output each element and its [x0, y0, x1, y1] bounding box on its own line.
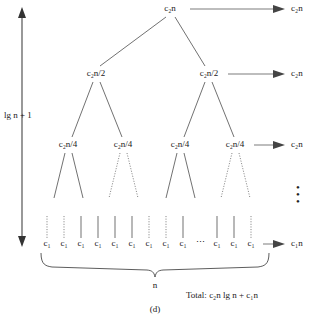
tree-leaf-2: c₁: [77, 239, 84, 248]
tree-leaf-4: c₁: [111, 239, 118, 248]
tree-height-text: lg n + 1: [4, 110, 32, 120]
tree-leaf-5: c₁: [128, 239, 135, 248]
tree-leaf-3: c₁: [94, 239, 101, 248]
edges-level-2-leaves: [54, 153, 250, 198]
leaf-stubs: [47, 216, 251, 238]
level-cost-2: c₂n: [291, 140, 303, 149]
height-axis: [18, 7, 26, 247]
tree-node-l2-3: c₂n/4: [226, 140, 245, 149]
figure-caption: (d): [150, 305, 161, 314]
tree-node-l2-0: c₂n/4: [59, 140, 78, 149]
vertical-ellipsis: •••: [296, 184, 300, 205]
tree-leaf-8: c₁: [179, 239, 186, 248]
tree-node-l2-2: c₂n/4: [171, 140, 190, 149]
recursion-tree-figure: lg n + 1 c₂n c₂n c₂n/2 c₂n/2 c₂n c₂n/4 c…: [0, 0, 317, 318]
level-cost-3: c₁n: [291, 239, 303, 248]
tree-leaf-6: c₁: [145, 239, 152, 248]
leaf-count-label: n: [153, 281, 158, 290]
leaf-row-ellipsis: ⋯: [196, 238, 205, 247]
edges-level-0-1: [100, 17, 205, 66]
tree-leaf-10: c₁: [230, 239, 237, 248]
tree-leaf-11: c₁: [247, 239, 254, 248]
leaf-count-brace: [41, 253, 269, 277]
level-cost-1: c₂n: [291, 69, 303, 78]
level-cost-arrows: [190, 5, 285, 248]
tree-node-l1-1: c₂n/2: [200, 69, 219, 78]
tree-leaf-0: c₁: [43, 239, 50, 248]
total-cost-label: Total: c₂n lg n + c₁n: [186, 291, 258, 300]
total-prefix: Total:: [186, 290, 207, 300]
total-expression: c₂n lg n + c₁n: [209, 290, 258, 300]
edges-level-1-2: [72, 82, 234, 137]
tree-leaf-9: c₁: [213, 239, 220, 248]
tree-leaf-7: c₁: [162, 239, 169, 248]
tree-lines-svg: [0, 0, 317, 318]
tree-node-root: c₂n: [164, 4, 176, 13]
tree-node-l2-1: c₂n/4: [114, 140, 133, 149]
tree-leaf-1: c₁: [60, 239, 67, 248]
tree-height-label: lg n + 1: [4, 111, 32, 120]
tree-node-l1-0: c₂n/2: [87, 69, 106, 78]
level-cost-0: c₂n: [291, 4, 303, 13]
